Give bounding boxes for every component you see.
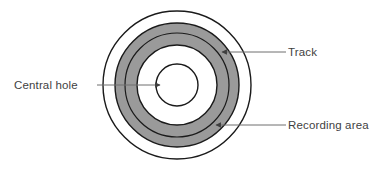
central-hole-circle — [156, 64, 198, 106]
disc-diagram: Central hole Track Recording area — [0, 0, 373, 169]
recording-area-label: Recording area — [288, 119, 369, 131]
central-hole-label: Central hole — [14, 79, 78, 91]
track-label: Track — [288, 46, 317, 58]
disc-diagram-canvas: Central hole Track Recording area — [0, 0, 373, 169]
